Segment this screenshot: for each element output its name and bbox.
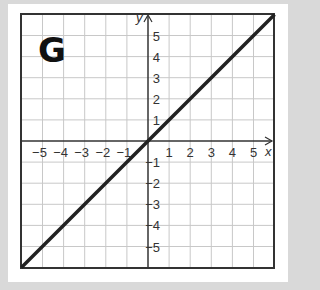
y-tick-label: −5 (145, 240, 160, 255)
y-tick-label: 1 (153, 113, 160, 128)
y-tick-label: 5 (153, 29, 160, 44)
x-tick-label: −3 (74, 145, 89, 160)
x-tick-label: −2 (95, 145, 110, 160)
y-tick-label: −4 (145, 218, 160, 233)
x-tick-label: 5 (250, 145, 257, 160)
x-tick-label: −1 (116, 145, 131, 160)
x-tick-label: 4 (229, 145, 236, 160)
x-tick-label: −4 (53, 145, 68, 160)
y-tick-label: 3 (153, 71, 160, 86)
y-tick-label: −3 (145, 197, 160, 212)
x-axis-label: x (264, 144, 272, 159)
x-tick-label: 1 (165, 145, 172, 160)
x-tick-label: −5 (32, 145, 47, 160)
y-tick-label: 2 (153, 92, 160, 107)
panel-label: G (38, 30, 66, 70)
x-tick-label: 3 (208, 145, 215, 160)
y-axis-label: y (135, 10, 144, 25)
y-tick-label: −1 (145, 155, 160, 170)
y-tick-label: 4 (153, 50, 160, 65)
y-tick-label: −2 (145, 176, 160, 191)
x-tick-label: 2 (187, 145, 194, 160)
